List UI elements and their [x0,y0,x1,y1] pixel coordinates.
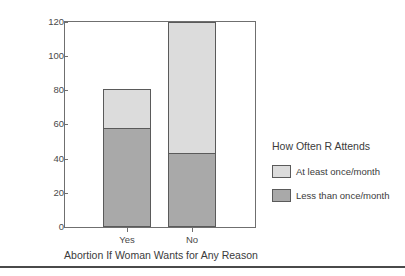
y-tick-120: 120 [36,17,64,27]
y-tick-mark-120 [64,22,68,23]
y-tick-20: 20 [36,188,64,198]
x-tick-label-yes: Yes [97,234,157,245]
y-tick-100: 100 [36,51,64,61]
plot-area [64,21,256,228]
y-tick-mark-60 [64,124,68,125]
y-tick-80: 80 [36,85,64,95]
y-tick-label-0: 0 [40,222,64,232]
x-axis-title: Abortion If Woman Wants for Any Reason [46,249,276,261]
legend-swatch-less-than-once-month [272,189,291,202]
y-tick-label-60: 60 [40,119,64,129]
y-tick-mark-20 [64,193,68,194]
stacked-bar-chart: Percentage 120 100 80 60 40 20 0 Yes [0,0,405,276]
y-tick-mark-40 [64,159,68,160]
x-tick-mark-yes [127,228,128,232]
x-tick-label-no: No [162,234,222,245]
bar-no[interactable] [168,22,216,227]
y-tick-label-40: 40 [40,154,64,164]
y-tick-label-120: 120 [40,17,64,27]
bar-no-segment-at-least-once-month[interactable] [168,22,216,154]
bar-yes-segment-at-least-once-month[interactable] [103,89,151,129]
legend-title: How Often R Attends [272,140,404,152]
bar-yes[interactable] [103,89,151,227]
legend-label-at-least-once-month: At least once/month [296,166,380,177]
footer-divider [0,266,405,268]
legend: How Often R Attends At least once/month … [272,140,404,213]
bar-no-segment-less-than-once-month[interactable] [168,153,216,227]
legend-item-less-than-once-month[interactable]: Less than once/month [272,189,404,202]
y-tick-0: 0 [36,222,64,232]
y-tick-label-100: 100 [40,51,64,61]
legend-item-at-least-once-month[interactable]: At least once/month [272,165,404,178]
y-tick-label-20: 20 [40,188,64,198]
legend-swatch-at-least-once-month [272,165,291,178]
legend-label-less-than-once-month: Less than once/month [296,190,389,201]
y-tick-mark-100 [64,56,68,57]
bar-yes-segment-less-than-once-month[interactable] [103,128,151,227]
y-tick-label-80: 80 [40,85,64,95]
y-tick-mark-0 [64,227,68,228]
y-tick-mark-80 [64,90,68,91]
y-tick-40: 40 [36,154,64,164]
y-tick-60: 60 [36,119,64,129]
x-tick-mark-no [192,228,193,232]
